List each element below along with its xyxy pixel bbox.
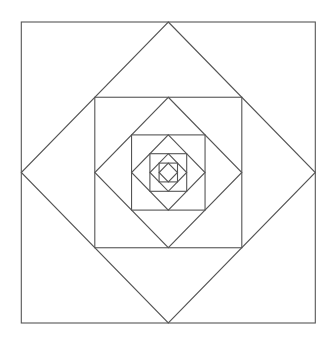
diamond-level-4 — [150, 154, 187, 192]
square-level-4 — [150, 154, 187, 192]
diamond-level-5 — [159, 163, 177, 182]
square-level-3 — [132, 135, 206, 210]
square-level-5 — [159, 163, 177, 182]
shapes-group — [21, 22, 315, 323]
square-level-2 — [95, 97, 242, 248]
diamond-level-2 — [95, 97, 242, 248]
nested-squares-diagram — [0, 0, 335, 342]
diamond-level-1 — [21, 22, 315, 323]
nested-squares-svg — [0, 0, 335, 342]
diamond-level-3 — [132, 135, 206, 210]
square-level-1 — [21, 22, 315, 323]
